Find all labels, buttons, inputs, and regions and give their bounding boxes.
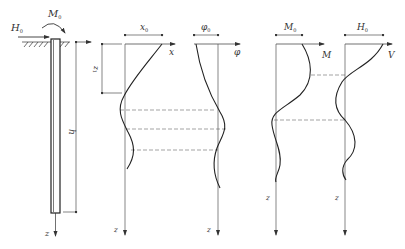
pile bbox=[51, 39, 60, 213]
svg-text:H0: H0 bbox=[356, 22, 368, 33]
svg-text:x0: x0 bbox=[140, 22, 148, 33]
shear-curve bbox=[336, 44, 383, 180]
svg-text:z: z bbox=[265, 194, 270, 202]
svg-text:z: z bbox=[113, 226, 118, 234]
zero-lines bbox=[120, 75, 345, 150]
moment-load-arrow bbox=[42, 24, 65, 33]
pile-group: H0 M0 z h z1 bbox=[10, 8, 122, 238]
laterally-loaded-pile-diagram: H0 M0 z h z1 x0 x z bbox=[0, 0, 405, 249]
svg-text:M: M bbox=[321, 50, 332, 60]
ground-hatch bbox=[22, 42, 70, 47]
svg-text:φ: φ bbox=[234, 47, 241, 57]
rotation-curve bbox=[196, 44, 225, 188]
svg-text:z: z bbox=[44, 229, 50, 238]
svg-text:φ0: φ0 bbox=[201, 22, 211, 33]
deflection-panel: x0 x z bbox=[113, 22, 175, 235]
shear-panel: H0 V z bbox=[334, 22, 396, 235]
svg-text:x: x bbox=[169, 47, 174, 57]
rotation-panel: φ0 φ z bbox=[194, 22, 241, 235]
svg-text:M0: M0 bbox=[47, 8, 61, 20]
svg-text:z1: z1 bbox=[92, 65, 100, 73]
svg-text:z: z bbox=[334, 194, 339, 202]
svg-text:z: z bbox=[206, 226, 211, 234]
moment-curve bbox=[272, 44, 311, 182]
svg-text:M0: M0 bbox=[283, 22, 296, 33]
svg-text:h: h bbox=[67, 129, 77, 135]
svg-text:H0: H0 bbox=[10, 22, 23, 34]
moment-panel: M0 M z bbox=[265, 22, 332, 235]
svg-text:V: V bbox=[388, 50, 396, 60]
